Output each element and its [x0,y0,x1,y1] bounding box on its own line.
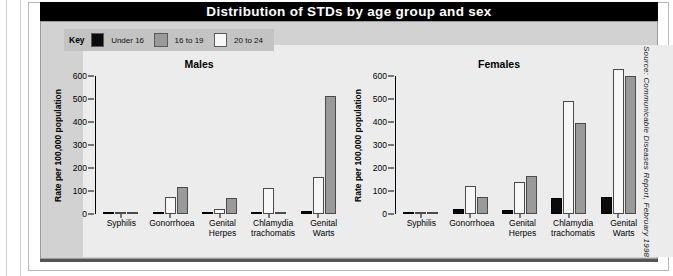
bar [313,177,324,214]
bar-group [495,76,544,214]
plot-area-females [396,76,643,214]
chart-title-males: Males [49,58,349,70]
bar [575,123,586,214]
bar-group [96,76,145,214]
bar [325,96,336,214]
legend-swatch-16-to-19 [154,33,168,47]
chart-panel-males: Males Rate per 100,000 population 010020… [49,58,349,258]
x-tick-label: GenitalHerpes [197,218,248,238]
chart-title-females: Females [349,58,649,70]
bar [177,187,188,214]
x-tick-label: Syphilis [396,218,447,238]
y-tick-label: 500 [73,94,87,104]
y-tick-mark [88,76,94,77]
bar [251,212,262,214]
bar [465,186,476,214]
bar [226,198,237,214]
y-tick-label: 100 [73,186,87,196]
y-tick-label: 600 [373,71,387,81]
bar [301,211,312,214]
figure-root: Distribution of STDs by age group and se… [0,0,673,276]
bar [526,176,537,214]
bar-group [594,76,643,214]
bar [601,197,612,214]
legend-label-16-to-19: 16 to 19 [175,36,204,45]
x-tick-label: Syphilis [96,218,147,238]
y-tick-mark [88,214,94,215]
legend-label-under-16: Under 16 [111,36,144,45]
y-axis-label-females: Rate per 100,000 population [351,76,365,214]
bar [514,182,525,214]
bar [165,197,176,214]
y-tick-mark [388,76,394,77]
bar [153,212,164,214]
page-rule-left [6,0,7,276]
figure-body: Key Under 16 16 to 19 20 to 24 Source: C… [40,21,658,259]
legend-swatch-20-to-24 [214,33,228,47]
y-tick-label: 300 [373,140,387,150]
y-tick-mark [88,191,94,192]
y-tick-mark [88,99,94,100]
plot-area-males [96,76,343,214]
bar [263,188,274,214]
x-tick-label: Gonorrhoea [447,218,498,238]
legend-key-label: Key [69,35,85,45]
y-axis-label-males: Rate per 100,000 population [51,76,65,214]
y-tick-label: 200 [73,163,87,173]
bar [477,197,488,214]
bar [502,210,513,214]
bar-group [294,76,343,214]
x-tick-label: Chlamydiatrachomatis [548,218,599,238]
x-tick-label: GenitalHerpes [497,218,548,238]
y-ticks-males: 0100200300400500600 [65,76,95,214]
x-tick-label: GenitalWarts [598,218,649,238]
y-tick-mark [88,122,94,123]
y-tick-label: 600 [73,71,87,81]
y-tick-label: 200 [373,163,387,173]
bar [403,212,414,214]
x-tick-label: Chlamydiatrachomatis [248,218,299,238]
bar [275,212,286,214]
y-tick-label: 400 [373,117,387,127]
y-tick-label: 300 [73,140,87,150]
bar-group [195,76,244,214]
bar [563,101,574,214]
chart-legend: Key Under 16 16 to 19 20 to 24 [64,29,274,51]
figure-title: Distribution of STDs by age group and se… [40,2,658,21]
figure-title-bar: Distribution of STDs by age group and se… [40,2,658,21]
x-labels-males: SyphilisGonorrhoeaGenitalHerpesChlamydia… [96,218,349,238]
plot-wrap-females: 0100200300400500600 [365,76,643,214]
y-tick-mark [388,145,394,146]
figure-bottom-rule [40,259,658,262]
y-tick-mark [388,99,394,100]
y-tick-label: 100 [373,186,387,196]
chart-panel-females: Females Rate per 100,000 population 0100… [349,58,649,258]
y-tick-mark [388,122,394,123]
page-rule-left-2 [20,0,21,276]
y-tick-mark [388,191,394,192]
charts-container: Males Rate per 100,000 population 010020… [41,58,659,258]
bar [613,69,624,214]
y-ticks-females: 0100200300400500600 [365,76,395,214]
legend-label-20-to-24: 20 to 24 [234,36,263,45]
legend-swatch-under-16 [91,33,105,47]
bar [625,76,636,214]
x-tick-label: GenitalWarts [298,218,349,238]
bar [551,198,562,214]
bar [453,209,464,214]
plot-wrap-males: 0100200300400500600 [65,76,343,214]
bar-group [544,76,593,214]
x-labels-females: SyphilisGonorrhoeaGenitalHerpesChlamydia… [396,218,649,238]
bar-group [396,76,445,214]
y-tick-mark [388,168,394,169]
bar-group [445,76,494,214]
y-tick-mark [388,214,394,215]
bar [127,212,138,214]
bar [427,212,438,214]
y-tick-label: 400 [73,117,87,127]
x-tick-label: Gonorrhoea [147,218,198,238]
y-tick-label: 0 [382,209,387,219]
bar-group [244,76,293,214]
y-tick-mark [88,145,94,146]
y-tick-mark [88,168,94,169]
